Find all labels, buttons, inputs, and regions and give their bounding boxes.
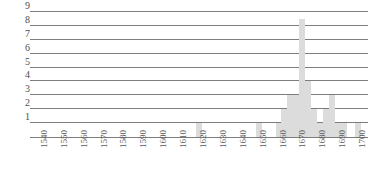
x-tick: 1590 [133, 139, 145, 185]
bar-series [30, 12, 368, 137]
x-tick-label: 1660 [279, 130, 288, 148]
x-tick: 1540 [34, 139, 46, 185]
x-tick: 1640 [233, 139, 245, 185]
x-axis: 1540155015601570158015901600161016201630… [30, 137, 368, 186]
x-tick: 1660 [273, 139, 285, 185]
x-tick-label: 1640 [239, 130, 248, 148]
x-tick: 1610 [173, 139, 185, 185]
x-tick-label: 1690 [338, 130, 347, 148]
y-tick-label: 5 [6, 57, 30, 67]
x-tick-label: 1590 [139, 130, 148, 148]
plot-area [30, 12, 368, 137]
y-tick-label: 3 [6, 84, 30, 94]
y-tick-label: 2 [6, 98, 30, 108]
x-tick: 1670 [292, 139, 304, 185]
x-tick-label: 1600 [159, 130, 168, 148]
y-tick-label: 8 [6, 15, 30, 25]
y-tick-label: 4 [6, 70, 30, 80]
x-tick-label: 1650 [259, 130, 268, 148]
x-tick-label: 1550 [60, 130, 69, 148]
x-tick: 1550 [54, 139, 66, 185]
x-tick: 1630 [213, 139, 225, 185]
x-tick: 1680 [312, 139, 324, 185]
x-tick: 1580 [113, 139, 125, 185]
x-tick: 1690 [332, 139, 344, 185]
x-tick-label: 1620 [199, 130, 208, 148]
x-tick-label: 1560 [80, 130, 89, 148]
x-tick-label: 1680 [318, 130, 327, 148]
x-tick: 1700 [352, 139, 364, 185]
x-tick: 1650 [253, 139, 265, 185]
histogram-chart: 123456789 154015501560157015801590160016… [0, 0, 372, 186]
x-tick-label: 1630 [219, 130, 228, 148]
x-tick-label: 1700 [358, 130, 367, 148]
x-tick-label: 1540 [40, 130, 49, 148]
x-tick: 1620 [193, 139, 205, 185]
x-tick-label: 1670 [298, 130, 307, 148]
x-tick: 1570 [94, 139, 106, 185]
x-tick-label: 1570 [100, 130, 109, 148]
y-tick-label: 6 [6, 43, 30, 53]
x-tick: 1560 [74, 139, 86, 185]
y-tick-label: 1 [6, 112, 30, 122]
y-tick-label: 9 [6, 1, 30, 11]
x-tick: 1600 [153, 139, 165, 185]
y-tick-label: 7 [6, 29, 30, 39]
y-axis: 123456789 [0, 12, 30, 137]
x-tick-label: 1580 [119, 130, 128, 148]
x-tick-label: 1610 [179, 130, 188, 148]
